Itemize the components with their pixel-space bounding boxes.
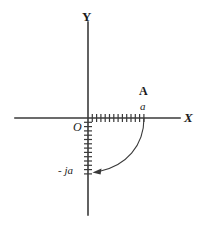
rotation-arc	[99, 118, 144, 172]
point-minus-ja-label: - ja	[58, 165, 73, 176]
point-a-label: a	[140, 101, 146, 112]
origin-label: O	[73, 121, 82, 133]
arc-arrowhead	[93, 169, 102, 175]
x-axis-label: X	[184, 111, 193, 124]
point-a-upper-label: A	[139, 85, 148, 97]
complex-plane-figure: Y X O A a - ja	[0, 0, 206, 230]
axes-and-arc-graphic	[0, 0, 206, 230]
y-axis-label: Y	[82, 10, 91, 23]
